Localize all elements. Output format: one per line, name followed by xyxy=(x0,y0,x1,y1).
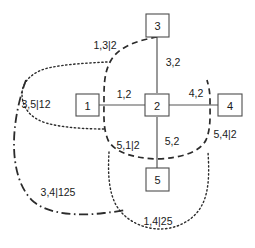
cut-label-1-4-25: 1,4|25 xyxy=(143,215,172,227)
edge-label-3-2: 3,2 xyxy=(166,56,181,68)
node-5[interactable]: 5 xyxy=(146,168,169,191)
graph-figure: 1 2 3 4 5 1,2 3,2 4,2 5, xyxy=(0,0,255,248)
edge-label-2-5: 5,2 xyxy=(165,135,180,147)
edge-label-2-4: 4,2 xyxy=(189,87,204,99)
cut-label-1-3-2: 1,3|2 xyxy=(93,39,116,51)
node-5-label: 5 xyxy=(154,174,160,186)
node-2[interactable]: 2 xyxy=(145,94,169,116)
node-1-label: 1 xyxy=(84,100,90,112)
node-3[interactable]: 3 xyxy=(146,14,169,37)
diagram-canvas: 1 2 3 4 5 1,2 3,2 4,2 5, xyxy=(0,0,255,248)
node-3-label: 3 xyxy=(154,20,160,32)
cutset-layer xyxy=(14,37,210,229)
cut-label-3-5-12: 3,5|12 xyxy=(21,98,50,110)
edge-label-1-2: 1,2 xyxy=(117,88,132,100)
node-1[interactable]: 1 xyxy=(76,94,99,116)
cut-label-5-1-2: 5,1|2 xyxy=(116,139,139,151)
node-4[interactable]: 4 xyxy=(218,94,242,116)
node-2-label: 2 xyxy=(154,100,160,112)
cut-label-3-4-125: 3,4|125 xyxy=(41,186,76,198)
cut-label-5-4-2: 5,4|2 xyxy=(213,128,236,140)
node-4-label: 4 xyxy=(227,100,233,112)
